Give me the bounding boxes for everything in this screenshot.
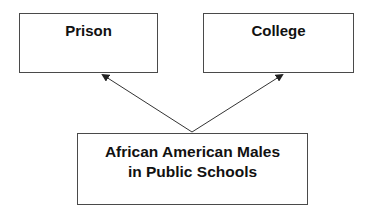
- node-prison-label: Prison: [20, 22, 157, 39]
- node-college-label: College: [204, 22, 353, 39]
- arrow-to-prison: [103, 75, 192, 132]
- node-source-label-line1: African American Males: [78, 142, 307, 162]
- node-college: College: [203, 13, 354, 73]
- node-prison: Prison: [19, 13, 158, 73]
- node-source-label-line2: in Public Schools: [78, 162, 307, 182]
- arrow-to-college: [192, 75, 282, 132]
- node-african-american-males: African American Males in Public Schools: [77, 133, 308, 205]
